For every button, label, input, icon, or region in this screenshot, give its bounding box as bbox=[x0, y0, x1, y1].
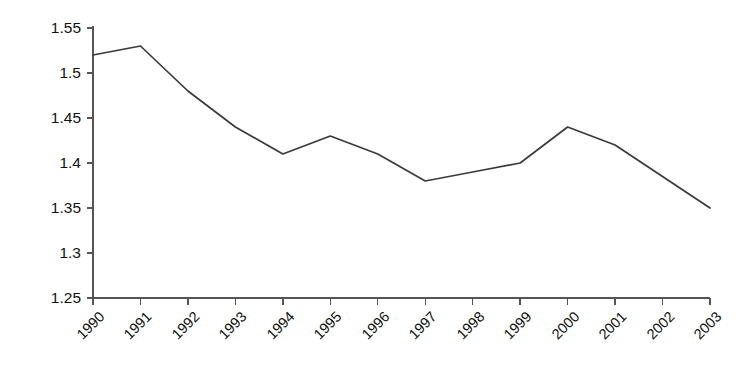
x-axis-ticks bbox=[93, 298, 710, 305]
y-tick-label: 1.45 bbox=[8, 110, 81, 126]
y-tick-label: 1.4 bbox=[8, 155, 81, 171]
y-tick-label: 1.3 bbox=[8, 245, 81, 261]
chart-plot-area bbox=[0, 0, 745, 368]
chart-axes bbox=[93, 26, 710, 298]
y-tick-label: 1.55 bbox=[8, 20, 81, 36]
y-axis-ticks bbox=[87, 28, 93, 298]
y-tick-label: 1.35 bbox=[8, 200, 81, 216]
data-series-line bbox=[93, 46, 710, 208]
line-chart: 1.551.51.451.41.351.31.25 19901991199219… bbox=[0, 0, 745, 368]
y-tick-label: 1.5 bbox=[8, 65, 81, 81]
y-tick-label: 1.25 bbox=[8, 290, 81, 306]
series-line-1 bbox=[93, 46, 710, 208]
